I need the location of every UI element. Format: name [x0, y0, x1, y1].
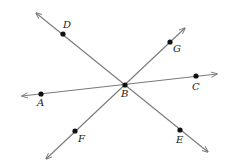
line-FG	[46, 28, 185, 159]
point-D	[60, 31, 65, 36]
point-E	[177, 127, 182, 132]
lines	[22, 13, 217, 159]
point-C	[193, 73, 198, 78]
label-B: B	[120, 88, 128, 99]
point-F	[72, 128, 77, 133]
line-AC	[22, 74, 217, 96]
label-E: E	[175, 134, 184, 145]
point-A	[38, 91, 43, 96]
geometry-diagram: DGCABFE	[0, 0, 226, 162]
label-C: C	[192, 81, 200, 92]
label-F: F	[77, 133, 86, 144]
label-D: D	[62, 19, 71, 30]
label-A: A	[36, 97, 44, 108]
point-B	[122, 82, 127, 87]
point-G	[167, 39, 172, 44]
label-G: G	[173, 43, 181, 54]
